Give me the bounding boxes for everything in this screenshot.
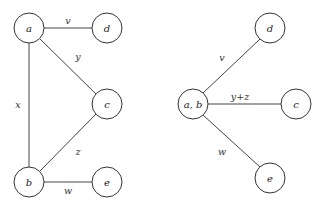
edge-label-y: y [74, 51, 81, 62]
edge-label-z: z [74, 146, 81, 157]
node-label-b: b [26, 177, 32, 188]
edge-label-v: v [219, 52, 225, 63]
edge-b-c [40, 114, 96, 171]
edge-label-w: w [64, 185, 72, 196]
node-label-c: c [104, 99, 110, 110]
left-graph: v y x z w a d c b e [14, 13, 122, 197]
node-label-d: d [104, 23, 110, 34]
node-label-ab: a, b [184, 99, 203, 110]
edge-a-c [40, 39, 96, 94]
node-label-e: e [104, 177, 110, 188]
node-label-e: e [267, 173, 273, 184]
node-label-c: c [293, 99, 299, 110]
graph-contraction-diagram: v y x z w a d c b e v y+z w a, b d c e [0, 0, 325, 205]
edge-label-v: v [65, 15, 71, 26]
edge-label-w: w [218, 146, 226, 157]
node-label-a: a [26, 23, 32, 34]
edge-label-x: x [15, 99, 21, 110]
node-label-d: d [267, 23, 273, 34]
edge-ab-e [203, 115, 260, 167]
right-graph: v y+z w a, b d c e [178, 13, 311, 193]
edge-ab-d [203, 39, 260, 93]
edge-label-y-plus-z: y+z [230, 91, 250, 102]
